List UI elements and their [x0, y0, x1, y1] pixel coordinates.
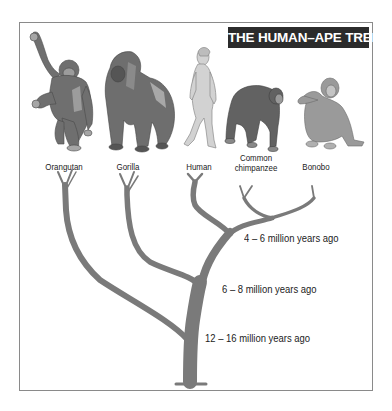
divergence-label-4-6-mya: 4 – 6 million years ago: [244, 232, 339, 244]
branch-human: [193, 182, 230, 234]
branch-gorilla: [127, 188, 198, 284]
branch-common-chimpanzee: [244, 198, 272, 218]
phylogenetic-tree: [0, 0, 392, 411]
branch-bonobo: [272, 198, 314, 218]
branch-human-chimp-stem: [200, 232, 230, 290]
divergence-label-12-16-mya: 12 – 16 million years ago: [205, 332, 310, 344]
tree-trunk: [190, 282, 200, 382]
divergence-label-6-8-mya: 6 – 8 million years ago: [222, 283, 317, 295]
